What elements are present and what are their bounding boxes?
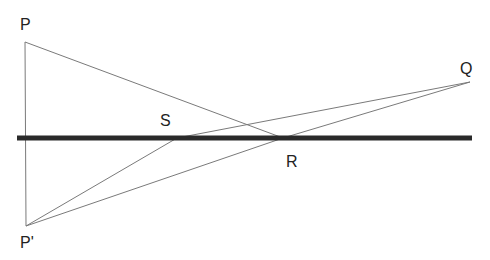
point-label-s: S <box>160 113 171 129</box>
reflection-diagram: P P' Q S R <box>0 0 490 260</box>
segment-p-r <box>25 42 283 138</box>
diagram-lines <box>0 0 490 260</box>
point-label-r: R <box>286 154 298 170</box>
segment-r-q <box>283 82 470 138</box>
segment-s-q <box>177 82 470 138</box>
segment-p-pprime <box>25 42 26 226</box>
point-label-p: P <box>20 17 31 33</box>
point-label-p-prime: P' <box>20 235 34 251</box>
point-label-q: Q <box>460 61 472 77</box>
